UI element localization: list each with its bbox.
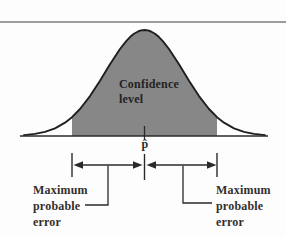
p-hat-label: p̂	[135, 138, 155, 151]
max-probable-error-label-left: Maximum probable error	[33, 182, 88, 230]
max-probable-error-label-right: Maximum probable error	[216, 182, 271, 230]
right-arrowhead-outer-icon	[207, 161, 217, 168]
left-arrowhead-outer-icon	[74, 161, 84, 168]
right-label-connector	[183, 166, 212, 203]
left-label-connector	[85, 166, 108, 205]
left-arrowhead-inner-icon	[133, 161, 143, 168]
confidence-level-label: Confidence level	[119, 77, 179, 106]
confidence-interval-figure: Confidence level p̂ Maximum probable err…	[0, 0, 286, 237]
right-arrowhead-inner-icon	[147, 161, 157, 168]
